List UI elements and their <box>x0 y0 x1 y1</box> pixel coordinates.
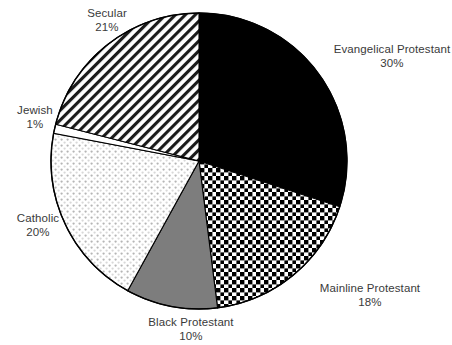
slice-label-catholic: Catholic 20% <box>2 211 74 239</box>
slice-label-jewish-percent: 1% <box>2 117 68 131</box>
slice-label-secular: Secular 21% <box>58 6 156 34</box>
slice-label-mainline-protestant-name: Mainline Protestant <box>320 282 420 294</box>
slice-label-secular-percent: 21% <box>58 20 156 34</box>
slice-label-evangelical-protestant: Evangelical Protestant 30% <box>332 42 452 70</box>
slice-label-black-protestant-name: Black Protestant <box>148 316 233 328</box>
slice-label-jewish-name: Jewish <box>17 104 53 116</box>
pie-chart-figure: Secular 21% Evangelical Protestant 30% M… <box>0 0 452 345</box>
slice-label-mainline-protestant-percent: 18% <box>300 295 440 309</box>
slice-label-mainline-protestant: Mainline Protestant 18% <box>300 281 440 309</box>
slice-label-evangelical-protestant-name: Evangelical Protestant <box>334 43 451 55</box>
slice-label-jewish: Jewish 1% <box>2 103 68 131</box>
slice-label-black-protestant: Black Protestant 10% <box>128 315 254 343</box>
slice-label-catholic-percent: 20% <box>2 225 74 239</box>
slice-label-catholic-name: Catholic <box>17 212 59 224</box>
slice-label-evangelical-protestant-percent: 30% <box>332 56 452 70</box>
slice-label-secular-name: Secular <box>87 7 127 19</box>
slice-label-black-protestant-percent: 10% <box>128 329 254 343</box>
